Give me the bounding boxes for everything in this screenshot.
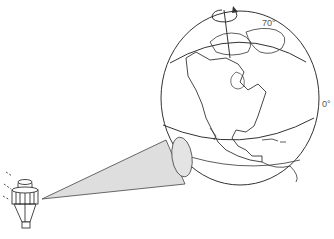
diagram-canvas xyxy=(0,0,334,239)
latitude-0-label: 0° xyxy=(322,99,331,109)
satellite xyxy=(3,172,38,228)
view-cone xyxy=(42,140,185,199)
latitude-70-label: 70° xyxy=(262,18,276,28)
